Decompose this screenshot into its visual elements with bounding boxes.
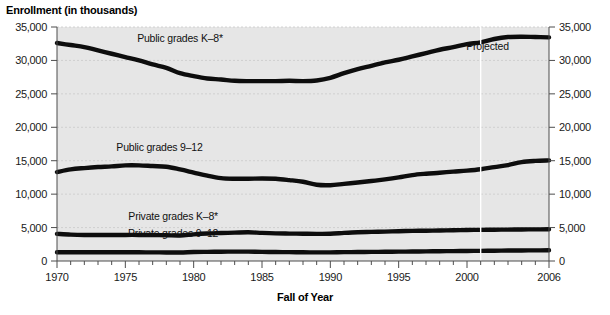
right-tick-label-25000: 25,000 bbox=[559, 88, 591, 100]
series-label-1: Public grades 9–12 bbox=[116, 141, 203, 153]
right-tick-label-30000: 30,000 bbox=[559, 54, 591, 66]
x-axis-title: Fall of Year bbox=[277, 291, 334, 303]
right-tick-label-5000: 5,000 bbox=[559, 222, 585, 234]
left-tick-label-35000: 35,000 bbox=[15, 21, 47, 33]
x-tick-label-1990: 1990 bbox=[319, 271, 342, 283]
enrollment-line-chart: Enrollment (in thousands) 05,00010,00015… bbox=[0, 0, 610, 315]
series-label-3: Private grades 9–12 bbox=[128, 227, 219, 239]
annotation-0: Projected bbox=[466, 40, 509, 52]
x-tick-label-1980: 1980 bbox=[182, 271, 205, 283]
left-tick-label-25000: 25,000 bbox=[15, 88, 47, 100]
x-tick-label-1985: 1985 bbox=[250, 271, 273, 283]
x-tick-label-1975: 1975 bbox=[114, 271, 137, 283]
left-tick-label-5000: 5,000 bbox=[21, 222, 47, 234]
x-tick-label-2000: 2000 bbox=[455, 271, 478, 283]
y-axis-title: Enrollment (in thousands) bbox=[6, 4, 138, 16]
series-label-2: Private grades K–8* bbox=[128, 210, 218, 222]
x-tick-label-2006: 2006 bbox=[537, 271, 560, 283]
left-tick-label-10000: 10,000 bbox=[15, 188, 47, 200]
series-label-0: Public grades K–8* bbox=[137, 32, 223, 44]
left-tick-label-20000: 20,000 bbox=[15, 121, 47, 133]
left-tick-label-30000: 30,000 bbox=[15, 54, 47, 66]
right-tick-label-35000: 35,000 bbox=[559, 21, 591, 33]
x-tick-label-1995: 1995 bbox=[387, 271, 410, 283]
right-tick-label-0: 0 bbox=[559, 255, 565, 267]
chart-annotations: Projected bbox=[466, 40, 509, 52]
left-tick-label-15000: 15,000 bbox=[15, 155, 47, 167]
x-tick-label-1970: 1970 bbox=[45, 271, 68, 283]
right-tick-label-20000: 20,000 bbox=[559, 121, 591, 133]
left-tick-label-0: 0 bbox=[41, 255, 47, 267]
right-tick-label-10000: 10,000 bbox=[559, 188, 591, 200]
series-line-3 bbox=[57, 250, 549, 252]
right-tick-label-15000: 15,000 bbox=[559, 155, 591, 167]
